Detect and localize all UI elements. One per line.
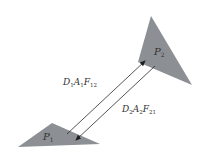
surface-p2-label-sub: 2 [161, 51, 165, 58]
surfaces [18, 16, 192, 147]
flow-arrow-1-to-2 [67, 61, 145, 134]
flow-2-label: D2A2F21 [121, 104, 156, 115]
radiation-exchange-diagram: P1 P2 D1A1F12 D2A2F21 [0, 0, 205, 158]
surface-p1-label-sub: 1 [50, 136, 54, 143]
flow-2-label-d: D [121, 104, 129, 114]
flow-1-label-f-sub: 12 [90, 82, 97, 88]
surface-p1-triangle [18, 123, 100, 147]
flow-arrows [67, 61, 155, 140]
flow-1-label-d: D [62, 77, 70, 87]
flow-2-label-f-sub: 21 [149, 109, 156, 115]
flow-1-label: D1A1F12 [62, 77, 97, 88]
